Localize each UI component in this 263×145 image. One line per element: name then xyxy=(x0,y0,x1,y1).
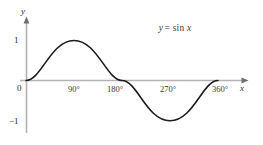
equation-x-symbol: x xyxy=(187,23,191,33)
equation-sin-function: sin xyxy=(172,23,185,33)
x-tick-label-90: 90° xyxy=(68,85,80,94)
x-axis-label: x xyxy=(240,84,244,93)
equation-annotation: y=sin x xyxy=(159,24,192,34)
x-tick-label-180: 180° xyxy=(107,85,123,94)
sine-graph-figure: y x 1 −1 0 90° 180° 270° 360° y=sin x xyxy=(0,0,263,145)
y-tick-label-minus-1: −1 xyxy=(9,117,19,126)
y-axis-label: y xyxy=(21,7,25,16)
equation-equals-sign: = xyxy=(163,23,172,33)
y-axis-arrowhead xyxy=(24,17,30,24)
plot-canvas xyxy=(0,0,263,145)
y-tick-label-1: 1 xyxy=(14,36,19,45)
x-tick-label-360: 360° xyxy=(212,85,228,94)
origin-label: 0 xyxy=(17,84,22,93)
x-tick-label-270: 270° xyxy=(160,85,176,94)
